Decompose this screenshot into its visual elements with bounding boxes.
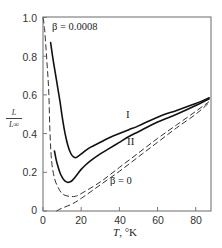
annotation-beta-0: β = 0 bbox=[110, 176, 132, 187]
y-axis-label-denominator: L∞ bbox=[6, 119, 22, 129]
y-tick-label-0: 0 bbox=[15, 205, 37, 216]
x-tick-label-80: 80 bbox=[190, 215, 202, 226]
x-axis-label: T, °K bbox=[113, 227, 137, 238]
annotation-beta-0-0008: β = 0.0008 bbox=[52, 22, 97, 33]
annotation-curve-I: I bbox=[126, 109, 130, 120]
x-tick-label-0: 0 bbox=[40, 215, 46, 226]
y-tick-label-0-4: 0.4 bbox=[15, 129, 37, 140]
x-tick-label-20: 20 bbox=[75, 215, 87, 226]
y-tick-label-0-8: 0.8 bbox=[15, 52, 37, 63]
y-axis-label-numerator: L bbox=[6, 108, 22, 119]
x-axis-label-unit: , °K bbox=[119, 226, 137, 238]
y-axis-label: L L∞ bbox=[6, 108, 22, 129]
y-tick-label-0-6: 0.6 bbox=[15, 90, 37, 101]
y-tick-label-0-2: 0.2 bbox=[15, 167, 37, 178]
y-tick-label-1-0: 1.0 bbox=[15, 13, 37, 24]
x-tick-label-40: 40 bbox=[114, 215, 126, 226]
annotation-curve-II: II bbox=[127, 136, 134, 147]
x-tick-label-60: 60 bbox=[152, 215, 164, 226]
